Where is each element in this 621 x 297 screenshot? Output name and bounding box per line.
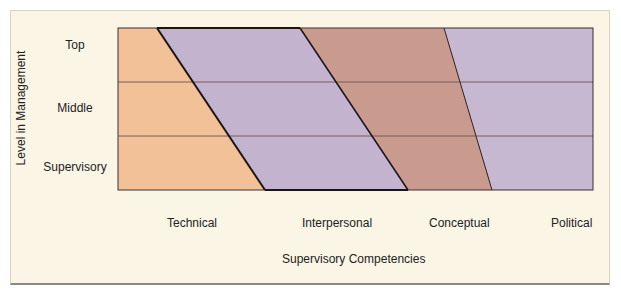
y-axis-label: Level in Management — [14, 51, 28, 166]
x-axis-label: Supervisory Competencies — [282, 252, 425, 266]
competency-label-conceptual: Conceptual — [429, 216, 490, 230]
competency-label-technical: Technical — [167, 216, 217, 230]
level-label-middle: Middle — [30, 101, 120, 115]
competency-label-political: Political — [551, 216, 592, 230]
level-label-supervisory: Supervisory — [30, 160, 120, 174]
competency-label-interpersonal: Interpersonal — [302, 216, 372, 230]
level-label-top: Top — [30, 38, 120, 52]
